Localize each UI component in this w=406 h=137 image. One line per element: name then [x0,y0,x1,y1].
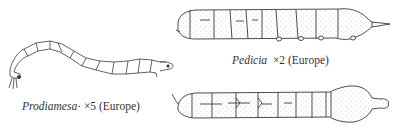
pedicia-larva-lower-illustration [0,0,406,137]
